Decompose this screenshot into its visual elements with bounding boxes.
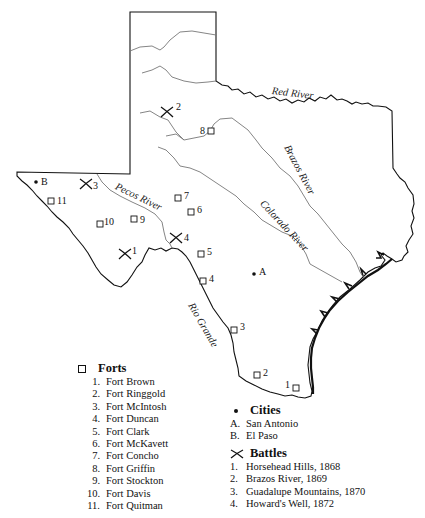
legend-battles-header: Battles [230,446,365,461]
rivers [97,31,364,282]
legend-city-item: A.San Antonio [230,418,298,430]
fort-marker-2 [254,372,260,378]
legend-battles-title: Battles [250,446,287,461]
battle-marker-3 [80,179,92,189]
pecos-river [97,174,172,248]
panhandle-river-south [142,66,216,83]
colorado-river [158,147,342,282]
legend-fort-item: 9.Fort Stockton [84,475,168,487]
fort-marker-9 [131,216,137,222]
legend-fort-item: 5.Fort Clark [84,426,168,438]
legend-battle-item: 4.Howard's Well, 1872 [230,498,365,510]
fort-label-10: 10 [104,217,114,227]
fort-label-11: 11 [57,196,67,206]
texas-map [0,0,425,518]
legend-fort-item: 7.Fort Concho [84,450,168,462]
fort-label-3: 3 [240,322,245,332]
canadian-river [130,31,216,51]
legend-cities-header: Cities [230,403,298,418]
legend-battle-item: 1.Horsehead Hills, 1868 [230,461,365,473]
battle-label-3: 3 [93,181,98,191]
fort-markers [48,128,299,391]
legend-cities: Cities A.San Antonio B.El Paso [230,403,298,443]
city-marker-b [34,180,38,184]
battle-label-1: 1 [132,246,137,256]
fort-marker-7 [175,195,181,201]
fort-label-9: 9 [140,215,145,225]
brazos-river [140,111,364,278]
city-dot-icon [234,409,238,413]
city-label-a: A [259,267,266,277]
fort-marker-4 [200,278,206,284]
legend-battle-item: 3.Guadalupe Mountains, 1870 [230,486,365,498]
fort-label-4: 4 [209,274,214,284]
legend-fort-item: 8.Fort Griffin [84,463,168,475]
legend-fort-item: 2.Fort Ringgold [84,388,168,400]
fort-label-1: 1 [285,380,290,390]
fort-marker-1 [293,385,299,391]
fort-marker-3 [231,327,237,333]
gulf-coast-detail [311,259,392,394]
legend-fort-item: 4.Fort Duncan [84,413,168,425]
legend-forts-title: Forts [98,361,126,376]
battle-marker-1 [119,249,131,259]
legend-city-item: B.El Paso [230,430,298,442]
fort-marker-8 [208,128,214,134]
legend-fort-item: 6.Fort McKavett [84,438,168,450]
legend-forts: Forts 1.Fort Brown 2.Fort Ringgold 3.For… [84,361,168,512]
fort-label-7: 7 [184,191,189,201]
legend-fort-item: 11.Fort Quitman [84,500,168,512]
legend-fort-item: 10.Fort Davis [84,488,168,500]
fort-marker-11 [48,198,54,204]
legend-cities-title: Cities [250,403,281,418]
fort-label-8: 8 [200,126,205,136]
legend-battle-item: 2.Brazos River, 1869 [230,473,365,485]
battle-label-4: 4 [184,233,189,243]
fort-label-2: 2 [263,368,268,378]
crossed-sabres-icon [230,449,244,459]
legend-fort-item: 3.Fort McIntosh [84,401,168,413]
battle-marker-2 [161,107,173,117]
battle-label-2: 2 [176,102,181,112]
fort-label-5: 5 [207,247,212,257]
legend-fort-item: 1.Fort Brown [84,376,168,388]
fort-label-6: 6 [197,205,202,215]
battle-marker-4 [170,233,182,243]
fort-marker-5 [198,251,204,257]
city-marker-a [252,272,256,276]
legend-battles: Battles 1.Horsehead Hills, 1868 2.Brazos… [230,446,365,511]
city-label-b: B [41,177,48,187]
fort-marker-6 [188,209,194,215]
fort-square-icon [78,365,86,373]
legend-forts-header: Forts [72,361,168,376]
fort-marker-10 [97,221,103,227]
